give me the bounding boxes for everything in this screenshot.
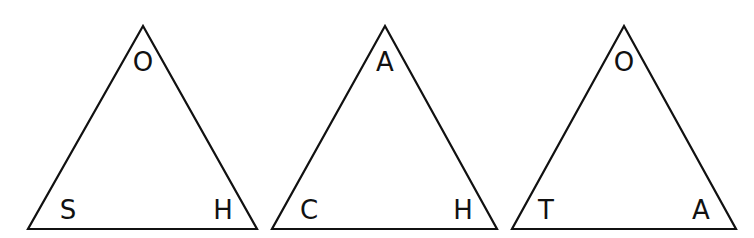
- triangle-2: A C H: [272, 26, 497, 229]
- triangle-2-top-label: A: [376, 47, 394, 77]
- triangles-diagram: O S H A C H O T A: [0, 0, 754, 238]
- triangle-3-bottom-right-label: A: [692, 195, 710, 225]
- triangle-1-bottom-right-label: H: [213, 195, 233, 225]
- triangle-3: O T A: [512, 26, 736, 229]
- triangle-1: O S H: [28, 26, 257, 229]
- triangle-3-top-label: O: [614, 47, 634, 77]
- triangle-1-bottom-left-label: S: [60, 195, 77, 225]
- triangle-1-top-label: O: [133, 47, 153, 77]
- triangle-2-bottom-left-label: C: [300, 195, 318, 225]
- triangle-3-bottom-left-label: T: [537, 195, 554, 225]
- triangle-2-bottom-right-label: H: [453, 195, 473, 225]
